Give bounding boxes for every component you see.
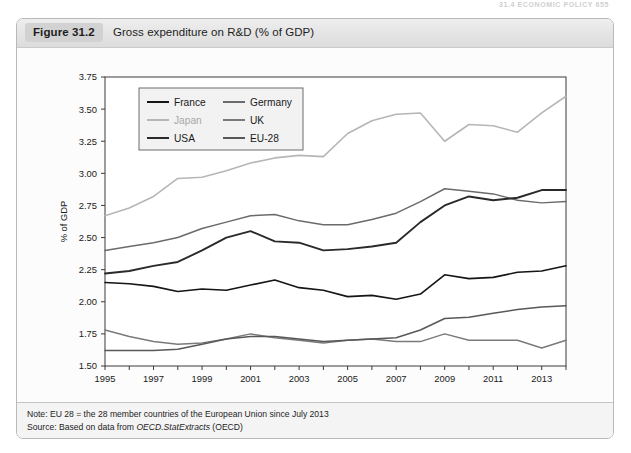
note-text: EU 28 = the 28 member countries of the E… [48, 409, 329, 419]
legend-label-eu-28: EU-28 [250, 133, 279, 144]
legend-label-uk: UK [250, 115, 264, 126]
y-axis-tick-label: 3.00 [79, 168, 97, 179]
source-publication: OECD.StatExtracts [136, 422, 210, 432]
chart-legend: FranceGermanyJapanUKUSAEU-28 [139, 88, 303, 150]
running-page-header: 31.4 ECONOMIC POLICY 655 [499, 1, 609, 8]
figure-number-badge: Figure 31.2 [25, 23, 103, 42]
y-axis-tick-label: 2.00 [79, 296, 97, 307]
legend-label-germany: Germany [250, 97, 293, 108]
y-axis-tick-label: 1.75 [79, 328, 97, 339]
y-axis-tick-label: 3.50 [79, 104, 97, 115]
x-axis-tick-label: 2001 [240, 373, 261, 384]
rd-expenditure-line-chart: 1.501.752.002.252.502.753.003.253.503.75… [17, 48, 614, 404]
y-axis-tick-label: 3.75 [79, 71, 97, 82]
x-axis-tick-label: 2009 [434, 373, 455, 384]
source-text-pre: Based on data from [57, 422, 137, 432]
y-axis-tick-label: 1.50 [79, 360, 97, 371]
chart-canvas: 1.501.752.002.252.502.753.003.253.503.75… [17, 48, 614, 404]
x-axis-tick-label: 1997 [143, 373, 164, 384]
legend-label-japan: Japan [174, 115, 202, 126]
note-line: Note: EU 28 = the 28 member countries of… [27, 408, 613, 421]
x-axis-tick-label: 2007 [386, 373, 407, 384]
figure-title: Gross expenditure on R&D (% of GDP) [113, 26, 314, 38]
x-axis-tick-label: 1999 [192, 373, 213, 384]
figure-caption-bar: Figure 31.2 Gross expenditure on R&D (% … [17, 19, 613, 48]
figure-box: Figure 31.2 Gross expenditure on R&D (% … [16, 18, 614, 439]
x-axis-tick-label: 1995 [95, 373, 116, 384]
y-axis-tick-label: 2.75 [79, 200, 97, 211]
x-axis-tick-label: 2011 [483, 373, 503, 384]
source-label: Source: [27, 422, 57, 432]
x-axis-tick-label: 2003 [289, 373, 310, 384]
y-axis-tick-label: 2.25 [79, 264, 97, 275]
x-axis-tick-label: 2013 [531, 373, 552, 384]
legend-label-france: France [174, 97, 206, 108]
y-axis-tick-label: 3.25 [79, 136, 97, 147]
y-axis-tick-label: 2.50 [79, 232, 97, 243]
note-label: Note: [27, 409, 48, 419]
legend-label-usa: USA [174, 133, 195, 144]
source-line: Source: Based on data from OECD.StatExtr… [27, 421, 613, 434]
figure-footnotes: Note: EU 28 = the 28 member countries of… [17, 402, 613, 438]
x-axis-tick-label: 2005 [337, 373, 358, 384]
y-axis-title: % of GDP [58, 201, 69, 243]
source-text-post: (OECD) [210, 422, 243, 432]
